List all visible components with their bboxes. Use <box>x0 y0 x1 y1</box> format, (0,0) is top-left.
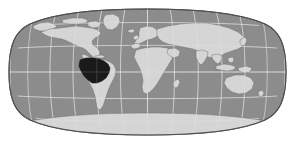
world-map-figure <box>0 0 295 144</box>
world-map-canvas[interactable] <box>0 0 295 144</box>
